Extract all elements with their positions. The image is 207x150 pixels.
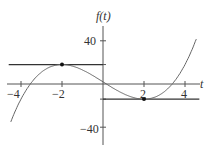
- function-curve: [11, 39, 197, 122]
- y-axis-label: f(t): [96, 10, 111, 22]
- x-tick-label-neg2: −2: [52, 88, 65, 100]
- x-tick-label-neg4: −4: [7, 88, 20, 100]
- y-tick-label-neg40: −40: [80, 123, 99, 135]
- x-tick-label-2: 2: [140, 88, 146, 100]
- x-axis-label: t: [200, 78, 203, 90]
- y-tick-label-40: 40: [84, 35, 96, 47]
- local-max-point: [60, 63, 64, 67]
- x-tick-label-4: 4: [181, 88, 187, 100]
